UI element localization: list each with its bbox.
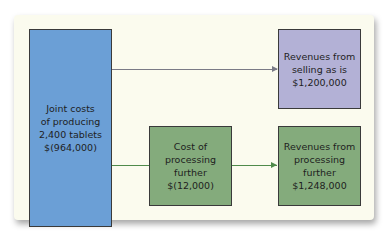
connector-joint-to-cost-processing: [112, 165, 149, 166]
joint-costs-box: Joint costs of producing 2,400 tablets $…: [29, 29, 112, 227]
arrowhead-right-icon: [271, 162, 277, 168]
connector-joint-to-revenue-as-is: [112, 69, 277, 70]
revenue-processing-label: Revenues from processing further $1,248,…: [284, 140, 355, 192]
joint-costs-label: Joint costs of producing 2,400 tablets $…: [39, 102, 102, 154]
revenue-as-is-box: Revenues from selling as is $1,200,000: [278, 29, 361, 109]
revenue-processing-box: Revenues from processing further $1,248,…: [278, 126, 361, 206]
cost-processing-label: Cost of processing further $(12,000): [165, 140, 216, 192]
revenue-as-is-label: Revenues from selling as is $1,200,000: [284, 50, 355, 89]
cost-processing-box: Cost of processing further $(12,000): [149, 126, 232, 206]
